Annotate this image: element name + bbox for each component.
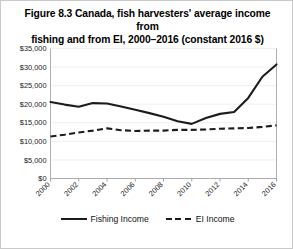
x-axis-tick-label: 2002 <box>62 180 80 198</box>
y-axis-tick-label: $30,000 <box>20 63 47 72</box>
chart-legend: Fishing Income EI Income <box>1 214 293 224</box>
dashed-line-swatch-icon <box>166 218 192 220</box>
x-axis-tick-label: 2000 <box>34 180 52 198</box>
series-line-fishing-income <box>51 64 277 123</box>
y-axis-tick-label: $5,000 <box>24 156 47 165</box>
axis-lines <box>51 49 277 179</box>
line-chart: $0$5,000$10,000$15,000$20,000$25,000$30,… <box>1 1 293 249</box>
x-axis-tick-label: 2004 <box>90 180 108 198</box>
x-axis-tick-label: 2006 <box>119 180 137 198</box>
x-axis-tick-label: 2010 <box>175 180 193 198</box>
y-axis-labels: $0$5,000$10,000$15,000$20,000$25,000$30,… <box>20 44 47 183</box>
x-axis-tick-label: 2016 <box>260 180 278 198</box>
legend-item-fishing-income: Fishing Income <box>61 214 149 224</box>
x-axis-tick-label: 2008 <box>147 180 165 198</box>
legend-label-ei-income: EI Income <box>196 214 235 224</box>
y-axis-tick-label: $25,000 <box>20 81 47 90</box>
y-axis-tick-label: $10,000 <box>20 137 47 146</box>
solid-line-swatch-icon <box>61 218 87 220</box>
x-axis-tick-label: 2012 <box>203 180 221 198</box>
legend-label-fishing-income: Fishing Income <box>91 214 149 224</box>
y-axis-tick-label: $15,000 <box>20 118 47 127</box>
series-line-ei-income <box>51 125 277 136</box>
x-axis-tick-label: 2014 <box>232 180 250 198</box>
y-axis-tick-label: $20,000 <box>20 100 47 109</box>
y-axis-tick-label: $35,000 <box>20 44 47 53</box>
data-series <box>51 64 277 136</box>
figure-container: Figure 8.3 Canada, fish harvesters' aver… <box>0 0 293 249</box>
gridlines <box>51 49 277 179</box>
legend-item-ei-income: EI Income <box>166 214 235 224</box>
x-axis-labels: 200020022004200620082010201220142016 <box>34 180 278 198</box>
plot-area: $0$5,000$10,000$15,000$20,000$25,000$30,… <box>1 1 293 249</box>
